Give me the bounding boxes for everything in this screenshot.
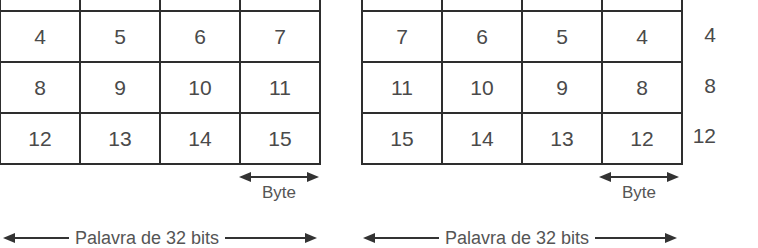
word-label: Palavra de 32 bits <box>69 228 225 248</box>
byte-cell: 15 <box>362 113 442 164</box>
arrow-right-icon <box>595 233 677 243</box>
byte-cell: 7 <box>362 11 442 62</box>
big-endian-memory-grid: 0 1 2 3 4 5 6 7 8 9 10 11 12 13 14 15 <box>0 0 321 165</box>
byte-label: Byte <box>599 183 679 203</box>
byte-cell: 13 <box>80 113 160 164</box>
byte-cell: 6 <box>160 11 240 62</box>
arrow-left-icon <box>3 233 69 243</box>
byte-cell: 5 <box>522 11 602 62</box>
byte-cell: 1 <box>522 0 602 11</box>
word-width-indicator: Palavra de 32 bits <box>3 228 317 248</box>
byte-cell: 15 <box>240 113 320 164</box>
byte-cell: 3 <box>362 0 442 11</box>
byte-cell: 14 <box>160 113 240 164</box>
row-address-label: 12 <box>676 124 716 148</box>
byte-cell: 10 <box>442 62 522 113</box>
byte-cell: 0 <box>0 0 80 11</box>
byte-cell: 0 <box>602 0 682 11</box>
byte-cell: 14 <box>442 113 522 164</box>
byte-cell: 9 <box>80 62 160 113</box>
grid-row: 7 6 5 4 <box>362 11 682 62</box>
byte-cell: 12 <box>0 113 80 164</box>
grid-row: 12 13 14 15 <box>0 113 320 164</box>
byte-cell: 13 <box>522 113 602 164</box>
grid-row: 3 2 1 0 <box>362 0 682 11</box>
arrow-right-icon <box>225 233 317 243</box>
row-address-label: 4 <box>676 23 716 47</box>
byte-label: Byte <box>239 183 319 203</box>
grid-row: 11 10 9 8 <box>362 62 682 113</box>
word-label: Palavra de 32 bits <box>439 228 595 248</box>
byte-width-indicator: Byte <box>239 172 319 203</box>
byte-cell: 8 <box>0 62 80 113</box>
byte-cell: 11 <box>362 62 442 113</box>
byte-cell: 4 <box>0 11 80 62</box>
double-arrow-icon <box>599 172 679 182</box>
byte-cell: 6 <box>442 11 522 62</box>
byte-cell: 1 <box>80 0 160 11</box>
grid-row: 8 9 10 11 <box>0 62 320 113</box>
byte-cell: 5 <box>80 11 160 62</box>
byte-cell: 12 <box>602 113 682 164</box>
byte-cell: 9 <box>522 62 602 113</box>
byte-cell: 11 <box>240 62 320 113</box>
byte-cell: 2 <box>160 0 240 11</box>
arrow-left-icon <box>363 233 439 243</box>
byte-cell: 10 <box>160 62 240 113</box>
grid-row: 15 14 13 12 <box>362 113 682 164</box>
byte-cell: 3 <box>240 0 320 11</box>
double-arrow-icon <box>239 172 319 182</box>
grid-row: 0 1 2 3 <box>0 0 320 11</box>
grid-row: 4 5 6 7 <box>0 11 320 62</box>
byte-cell: 2 <box>442 0 522 11</box>
byte-width-indicator: Byte <box>599 172 679 203</box>
byte-cell: 4 <box>602 11 682 62</box>
word-width-indicator: Palavra de 32 bits <box>363 228 677 248</box>
byte-cell: 8 <box>602 62 682 113</box>
byte-cell: 7 <box>240 11 320 62</box>
row-address-label: 8 <box>676 74 716 98</box>
little-endian-memory-grid: 3 2 1 0 7 6 5 4 11 10 9 8 15 14 13 12 <box>361 0 683 165</box>
